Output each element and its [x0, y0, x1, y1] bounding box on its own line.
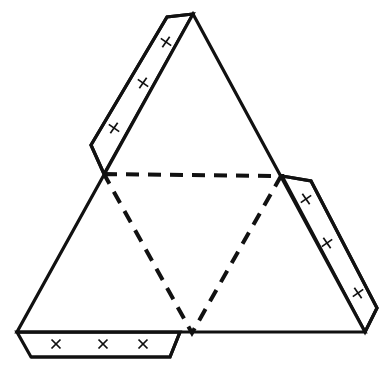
- figure-root: [0, 0, 388, 379]
- tetrahedron-net-diagram: [0, 0, 388, 379]
- bottom-tab: [17, 332, 180, 357]
- bottom-tab-shape: [17, 332, 180, 357]
